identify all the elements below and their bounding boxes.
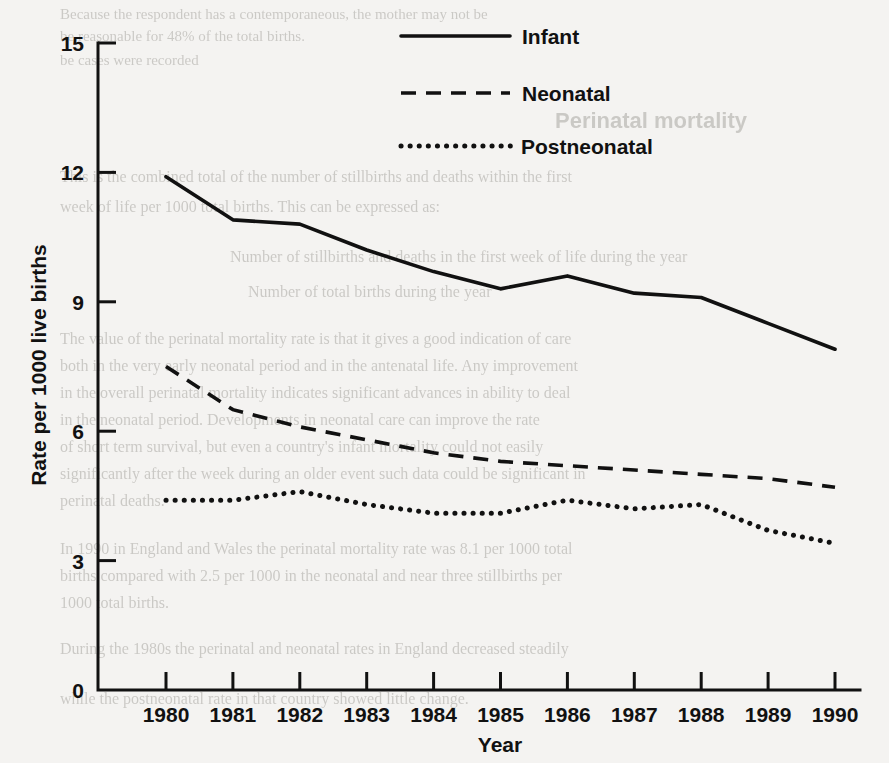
- y-axis-tick-labels: 03691215: [61, 32, 85, 702]
- axes-group: [98, 43, 860, 690]
- legend-label-postneonatal: Postneonatal: [521, 135, 653, 158]
- x-axis-tick-label: 1983: [343, 703, 390, 726]
- x-axis-ticks: [166, 672, 835, 690]
- y-axis-tick-label: 12: [61, 161, 84, 184]
- y-axis-tick-label: 9: [72, 291, 84, 314]
- x-axis-tick-label: 1984: [410, 703, 457, 726]
- legend-item-infant: Infant: [401, 25, 579, 48]
- y-axis-tick-label: 15: [61, 32, 85, 55]
- x-axis-tick-labels: 1980198119821983198419851986198719881989…: [143, 703, 859, 726]
- chart-legend: Infant Neonatal Postneonatal: [401, 25, 653, 158]
- legend-item-neonatal: Neonatal: [401, 82, 611, 105]
- series-line-infant: [166, 177, 835, 350]
- data-series-group: [166, 177, 835, 544]
- x-axis-tick-label: 1985: [477, 703, 524, 726]
- y-axis-title: Rate per 1000 live births: [27, 244, 50, 486]
- legend-label-neonatal: Neonatal: [522, 82, 611, 105]
- series-line-postneonatal: [166, 492, 835, 544]
- x-axis-tick-label: 1982: [276, 703, 323, 726]
- x-axis-tick-label: 1987: [611, 703, 658, 726]
- x-axis-tick-label: 1989: [745, 703, 792, 726]
- x-axis-tick-label: 1988: [678, 703, 725, 726]
- y-axis-tick-label: 0: [72, 679, 84, 702]
- series-line-neonatal: [166, 367, 835, 488]
- chart-canvas: 03691215 1980198119821983198419851986198…: [0, 0, 889, 763]
- y-axis-ticks: [98, 43, 116, 561]
- x-axis-tick-label: 1981: [210, 703, 257, 726]
- y-axis-tick-label: 3: [72, 550, 84, 573]
- x-axis-tick-label: 1990: [812, 703, 859, 726]
- infant-mortality-line-chart: 03691215 1980198119821983198419851986198…: [0, 0, 889, 763]
- y-axis-tick-label: 6: [72, 420, 84, 443]
- legend-label-infant: Infant: [522, 25, 579, 48]
- axis-lines: [98, 43, 860, 690]
- x-axis-tick-label: 1986: [544, 703, 591, 726]
- x-axis-title: Year: [478, 733, 522, 756]
- x-axis-tick-label: 1980: [143, 703, 190, 726]
- legend-item-postneonatal: Postneonatal: [401, 135, 653, 158]
